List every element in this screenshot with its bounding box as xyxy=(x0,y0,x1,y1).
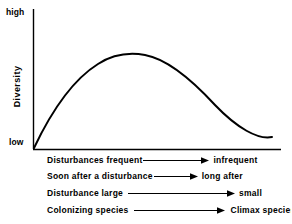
gradient-row: Disturbance large small xyxy=(0,185,291,201)
gradient-row-right-label: infrequent xyxy=(213,156,257,165)
y-axis-title: Diversity xyxy=(13,57,22,117)
gradient-row-left-label: Colonizing species xyxy=(47,206,129,215)
gradient-row: Soon after a disturbance long after xyxy=(0,168,291,184)
gradient-row-right-label: Climax species xyxy=(231,206,292,215)
y-axis-low-label: low xyxy=(9,138,23,147)
gradient-row-left-label: Disturbance large xyxy=(47,189,123,198)
gradient-row-right-label: long after xyxy=(202,172,243,181)
diversity-disturbance-figure: high low Diversity Disturbances frequent… xyxy=(0,0,291,224)
right-arrow-icon xyxy=(143,156,210,165)
diversity-curve xyxy=(34,54,272,148)
right-arrow-icon xyxy=(134,206,226,215)
right-arrow-icon xyxy=(128,189,236,198)
gradient-rows: Disturbances frequent infrequent Soon af… xyxy=(0,152,291,224)
gradient-row-left-label: Disturbances frequent xyxy=(47,156,142,165)
gradient-row: Colonizing species Climax species xyxy=(0,202,291,218)
gradient-row-left-label: Soon after a disturbance xyxy=(47,172,153,181)
gradient-row-right-label: small xyxy=(239,189,262,198)
y-axis-high-label: high xyxy=(6,8,24,17)
right-arrow-icon xyxy=(154,172,199,181)
gradient-row: Disturbances frequent infrequent xyxy=(0,152,291,168)
